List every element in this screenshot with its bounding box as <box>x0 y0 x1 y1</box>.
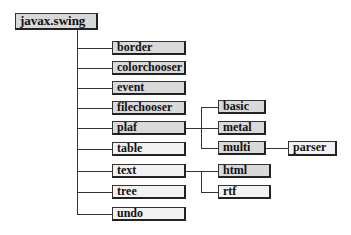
connector-filechooser <box>77 108 112 109</box>
connector-plaf <box>77 128 112 129</box>
node-table: table <box>112 142 186 156</box>
connector-border <box>77 48 112 49</box>
node-text: text <box>112 164 186 178</box>
node-html: html <box>218 164 271 178</box>
connector-table <box>77 149 112 150</box>
node-colorchooser: colorchooser <box>112 61 186 75</box>
connector-multi <box>201 148 218 149</box>
text-children-line <box>201 171 202 193</box>
connector-rtf <box>201 192 218 193</box>
connector-event <box>77 88 112 89</box>
connector-html <box>201 171 218 172</box>
node-parser: parser <box>288 141 337 156</box>
node-plaf: plaf <box>112 121 186 135</box>
connector-metal <box>201 128 218 129</box>
node-basic: basic <box>218 100 266 114</box>
node-filechooser: filechooser <box>112 101 186 115</box>
connector-plaf-out <box>186 128 201 129</box>
connector-text <box>77 171 112 172</box>
node-event: event <box>112 81 186 95</box>
connector-undo <box>77 214 112 215</box>
connector-text-out <box>186 171 201 172</box>
node-multi: multi <box>218 141 266 155</box>
package-tree-diagram: javax.swing border colorchooser event fi… <box>0 0 351 235</box>
connector-tree <box>77 192 112 193</box>
node-metal: metal <box>218 121 266 135</box>
node-undo: undo <box>112 207 186 221</box>
node-rtf: rtf <box>218 185 271 199</box>
node-tree: tree <box>112 185 186 199</box>
connector-colorchooser <box>77 68 112 69</box>
trunk-line <box>77 30 78 214</box>
node-border: border <box>112 41 186 55</box>
connector-basic <box>201 107 218 108</box>
connector-parser <box>266 148 288 149</box>
node-javax-swing: javax.swing <box>15 13 98 30</box>
